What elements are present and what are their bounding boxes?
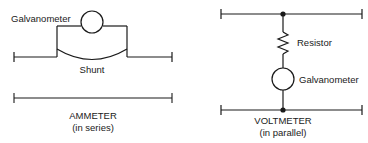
ammeter-panel: Galvanometer Shunt AMMETER (in series) bbox=[11, 11, 172, 133]
ammeter-shunt-arc bbox=[57, 49, 127, 60]
diagram-canvas: Galvanometer Shunt AMMETER (in series) bbox=[0, 0, 368, 143]
ammeter-shunt-label: Shunt bbox=[80, 64, 105, 75]
ammeter-galvanometer-label: Galvanometer bbox=[11, 13, 71, 24]
voltmeter-galvanometer-symbol bbox=[272, 68, 294, 90]
circuit-diagram-figure: Galvanometer Shunt AMMETER (in series) bbox=[0, 0, 368, 143]
voltmeter-caption-subtitle: (in parallel) bbox=[260, 127, 307, 138]
ammeter-caption-subtitle: (in series) bbox=[72, 122, 114, 133]
ammeter-galvanometer-symbol bbox=[81, 11, 103, 33]
voltmeter-galvanometer-label: Galvanometer bbox=[299, 74, 359, 85]
voltmeter-panel: Resistor Galvanometer VOLTMETER (in para… bbox=[221, 9, 362, 138]
voltmeter-caption-title: VOLTMETER bbox=[254, 115, 311, 126]
ammeter-caption-title: AMMETER bbox=[69, 110, 117, 121]
voltmeter-resistor-symbol bbox=[278, 32, 288, 54]
voltmeter-resistor-label: Resistor bbox=[297, 37, 332, 48]
